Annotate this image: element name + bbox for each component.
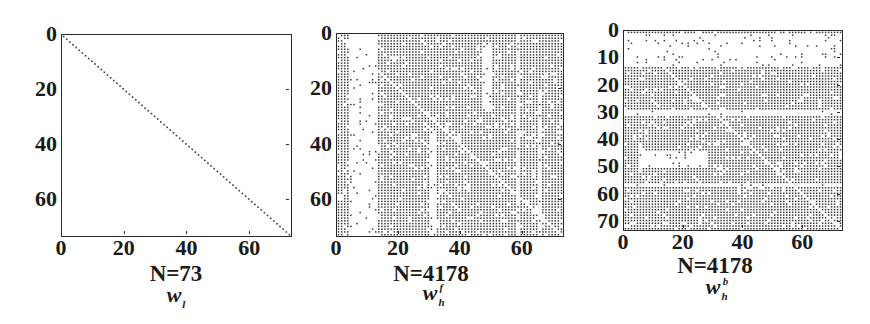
x-tick-label: 0 [603, 231, 643, 253]
y-tick-mark [837, 194, 840, 195]
y-tick-label: 50 [579, 155, 619, 177]
y-tick-mark [837, 85, 840, 86]
y-tick-label: 40 [579, 128, 619, 150]
x-tick-mark [683, 225, 684, 228]
x-tick-label: 20 [663, 231, 703, 253]
symbol-base: w [706, 274, 721, 299]
x-tick-mark [398, 231, 399, 234]
symbol-subscript: l [182, 298, 185, 310]
x-tick-mark [61, 231, 62, 234]
y-tick-mark [837, 30, 840, 31]
sparsity-pattern [624, 31, 842, 230]
x-tick-mark [460, 231, 461, 234]
y-tick-mark [837, 221, 840, 222]
x-tick-label: 40 [722, 231, 762, 253]
x-tick-label: 60 [782, 231, 822, 253]
x-tick-mark [186, 231, 187, 234]
symbol-superscript: f [440, 281, 444, 293]
x-tick-mark [802, 225, 803, 228]
y-tick-mark [558, 33, 561, 34]
y-tick-mark [558, 199, 561, 200]
symbol-superscript: b [723, 275, 729, 287]
y-tick-label: 30 [579, 101, 619, 123]
y-tick-mark [837, 166, 840, 167]
symbol-whb: whb [687, 276, 747, 298]
symbol-whf: whf [403, 282, 463, 304]
x-tick-label: 0 [316, 237, 356, 259]
y-tick-mark [286, 199, 289, 200]
y-tick-label: 10 [579, 46, 619, 68]
plot-area-whf [336, 33, 564, 237]
y-tick-mark [837, 57, 840, 58]
y-tick-mark [286, 34, 289, 35]
y-tick-label: 0 [579, 19, 619, 41]
y-tick-label: 20 [579, 74, 619, 96]
y-tick-label: 40 [292, 133, 332, 155]
x-tick-label: 20 [104, 237, 144, 259]
x-tick-label: 60 [502, 237, 542, 259]
symbol-base: w [423, 280, 438, 305]
symbol-subscript: h [438, 296, 444, 308]
y-tick-mark [837, 112, 840, 113]
x-tick-label: 20 [378, 237, 418, 259]
y-tick-label: 70 [579, 210, 619, 232]
y-tick-mark [837, 139, 840, 140]
y-tick-mark [286, 89, 289, 90]
y-tick-label: 0 [17, 23, 57, 45]
sparsity-pattern [337, 34, 563, 236]
y-tick-mark [558, 88, 561, 89]
y-tick-label: 20 [292, 77, 332, 99]
plot-area-wl [61, 34, 292, 237]
y-tick-label: 0 [292, 22, 332, 44]
symbol-wl: wl [146, 284, 206, 306]
x-tick-mark [742, 225, 743, 228]
y-tick-label: 40 [17, 133, 57, 155]
x-tick-mark [124, 231, 125, 234]
x-tick-mark [623, 225, 624, 228]
y-tick-label: 20 [17, 78, 57, 100]
x-tick-label: 0 [41, 237, 81, 259]
plot-area-whb [623, 30, 843, 231]
symbol-base: w [167, 282, 182, 307]
x-tick-mark [336, 231, 337, 234]
symbol-subscript: h [722, 290, 728, 302]
y-tick-label: 60 [579, 183, 619, 205]
x-tick-mark [522, 231, 523, 234]
x-tick-label: 40 [440, 237, 480, 259]
sparsity-pattern [62, 35, 291, 236]
x-tick-label: 60 [229, 237, 269, 259]
y-tick-mark [286, 144, 289, 145]
y-tick-label: 60 [292, 188, 332, 210]
x-tick-label: 40 [166, 237, 206, 259]
y-tick-label: 60 [17, 188, 57, 210]
y-tick-mark [558, 144, 561, 145]
x-tick-mark [249, 231, 250, 234]
